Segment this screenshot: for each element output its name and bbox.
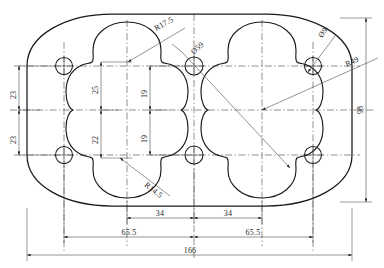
- dimension-left-chain: 23 23: [9, 66, 56, 155]
- technical-drawing-canvas: 23 23 25 22 19 19 98: [0, 0, 384, 268]
- dimension-bottom-34: 34 34: [127, 168, 262, 224]
- dim-label-34-left: 34: [156, 209, 164, 218]
- dim-label-d59: Ø59: [189, 40, 206, 56]
- callout-r17-5: R17.5: [128, 15, 185, 62]
- gasket-drawing-svg: 23 23 25 22 19 19 98: [0, 0, 384, 268]
- dim-label-655-left: 65.5: [122, 228, 137, 237]
- dim-label-25: 25: [91, 86, 100, 94]
- dim-label-34-right: 34: [224, 209, 232, 218]
- leader-d59-tail: [172, 44, 182, 52]
- dim-label-d9: Ø9: [316, 26, 329, 40]
- dim-label-166: 166: [184, 246, 197, 255]
- hole-center-crosses: [54, 56, 323, 165]
- dim-label-22: 22: [91, 136, 100, 144]
- dim-label-98: 98: [356, 106, 365, 114]
- dimension-mid-chain: 19 19: [140, 66, 184, 155]
- callout-d59: Ø59: [172, 40, 290, 168]
- dim-label-left-lower-23: 23: [9, 136, 18, 144]
- dim-label-19-lower: 19: [140, 135, 149, 143]
- dim-label-r49: R49: [344, 55, 360, 69]
- dim-label-left-upper-23: 23: [9, 91, 18, 99]
- dim-label-r17-5: R17.5: [153, 15, 175, 33]
- dim-label-r14-5: R14.5: [143, 180, 165, 200]
- callout-r49: R49: [262, 55, 378, 110]
- dimension-bottom-166: 166: [27, 208, 352, 261]
- dimension-bottom-655: 65.5 65.5: [64, 165, 313, 243]
- dim-label-655-right: 65.5: [246, 228, 261, 237]
- dim-label-19-upper: 19: [140, 90, 149, 98]
